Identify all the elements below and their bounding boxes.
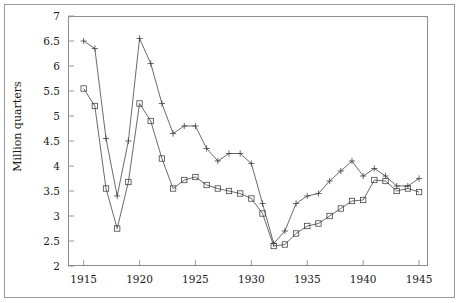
chart-canvas [0,0,460,303]
series-plus [81,35,423,246]
chart-figure: Million quarters 22.533.544.555.566.5719… [0,0,460,303]
